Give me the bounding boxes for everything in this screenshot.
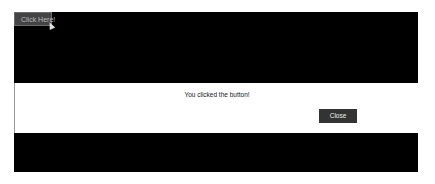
modal-message: You clicked the button!	[15, 91, 419, 98]
modal-dialog: You clicked the button! Close	[14, 83, 418, 133]
close-button[interactable]: Close	[319, 109, 357, 123]
